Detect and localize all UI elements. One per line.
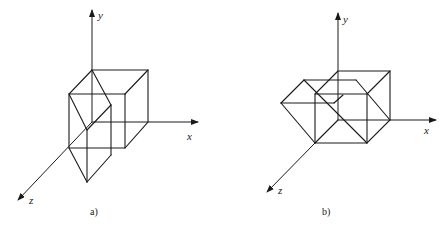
panel-b: y x z b) xyxy=(267,13,436,218)
z-label-b: z xyxy=(277,184,283,196)
z-axis-b xyxy=(267,143,315,192)
cube-a xyxy=(69,70,148,148)
x-label-a: x xyxy=(186,130,192,142)
prism-b xyxy=(281,80,390,143)
x-label-b: x xyxy=(423,124,429,136)
caption-b: b) xyxy=(322,206,330,218)
panel-a: y x z a) xyxy=(18,9,198,218)
z-axis-a xyxy=(18,122,92,200)
y-label-b: y xyxy=(342,13,348,25)
y-label-a: y xyxy=(97,9,103,21)
caption-a: a) xyxy=(90,206,98,218)
figure-canvas: y x z a) y x z b) xyxy=(0,0,448,227)
z-label-a: z xyxy=(28,194,34,206)
